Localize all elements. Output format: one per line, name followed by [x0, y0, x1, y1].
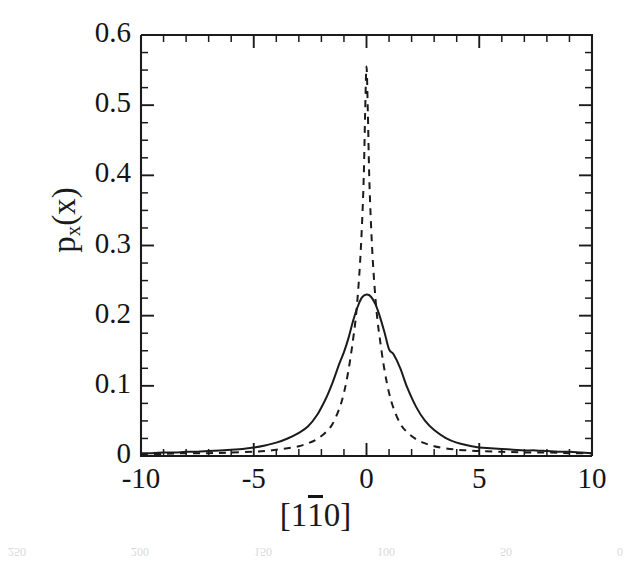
x-tick-label: -5: [204, 462, 304, 495]
series-solid-line: [141, 295, 592, 454]
axis-frame: [141, 35, 592, 456]
series-dashed-line: [141, 67, 592, 454]
y-tick-label: 0.1: [1, 367, 131, 400]
y-axis-title-subscript: x: [61, 226, 85, 237]
y-tick-label: 0.2: [1, 297, 131, 330]
x-tick-label: 10: [542, 462, 631, 495]
y-axis-title-base: p: [46, 236, 82, 253]
x-tick-label: 0: [317, 462, 417, 495]
y-tick-label: 0.6: [1, 16, 131, 49]
x-title-barred-index: 1: [307, 497, 324, 534]
y-axis-title: px(x): [46, 140, 86, 300]
x-tick-label: -10: [91, 462, 191, 495]
y-tick-label: 0.5: [1, 86, 131, 119]
x-title-first-index: 1: [291, 497, 308, 533]
x-axis-title: [110]: [0, 497, 631, 534]
x-title-close-bracket: ]: [340, 497, 351, 533]
x-title-last-index: 0: [324, 497, 341, 533]
y-axis-title-argument: (x): [46, 187, 82, 225]
ticks-layer: [141, 35, 592, 456]
x-tick-label: 5: [429, 462, 529, 495]
figure-container: 00.10.20.30.40.50.6 -10-50510 px(x) [110…: [0, 0, 631, 561]
x-title-open-bracket: [: [280, 497, 291, 533]
